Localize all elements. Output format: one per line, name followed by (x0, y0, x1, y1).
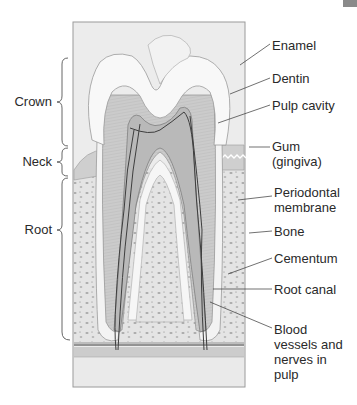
label-gum-line2: (gingiva) (272, 154, 322, 169)
label-gum: Gum (gingiva) (272, 139, 322, 169)
label-blood-line1: Blood (274, 322, 343, 337)
label-periodontal-line2: membrane (274, 200, 340, 215)
region-braces (57, 58, 70, 340)
label-root: Root (2, 222, 52, 237)
label-bone: Bone (274, 224, 304, 239)
neck-brace (57, 148, 68, 176)
label-periodontal-membrane: Periodontal membrane (274, 185, 340, 215)
label-neck: Neck (2, 154, 52, 169)
label-blood-line4: pulp (274, 367, 343, 382)
label-cementum: Cementum (274, 251, 338, 266)
label-gum-line1: Gum (272, 139, 322, 154)
label-pulp-cavity: Pulp cavity (272, 98, 335, 113)
label-periodontal-line1: Periodontal (274, 185, 340, 200)
label-root-canal: Root canal (274, 282, 336, 297)
root-brace (57, 178, 70, 340)
label-blood-line2: vessels and (274, 337, 343, 352)
label-enamel: Enamel (272, 38, 316, 53)
bottom-layers (74, 342, 244, 386)
label-dentin: Dentin (272, 71, 310, 86)
crown-brace (57, 58, 68, 146)
label-blood-vessels: Blood vessels and nerves in pulp (274, 322, 343, 382)
label-blood-line3: nerves in (274, 352, 343, 367)
label-crown: Crown (2, 94, 52, 109)
tooth (88, 35, 229, 341)
